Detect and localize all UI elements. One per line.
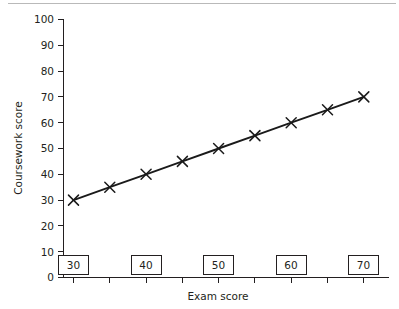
y-tick-label-40: 40 [41, 168, 54, 180]
x-boxed-label-70: 70 [349, 256, 379, 275]
y-tick-label-30: 30 [41, 194, 54, 206]
data-point-marker [250, 131, 260, 141]
y-tick-label-10: 10 [41, 246, 54, 258]
data-point-marker [141, 169, 151, 179]
y-tick-label-20: 20 [41, 220, 54, 232]
scatter-line-chart: 0 10 20 30 40 50 60 70 80 90 100 [0, 0, 399, 309]
data-point-marker [286, 118, 296, 128]
x-axis-title: Exam score [187, 290, 248, 302]
data-point-marker [177, 156, 187, 166]
data-point-marker [323, 105, 333, 115]
x-label-text-50: 50 [212, 259, 225, 271]
y-tick-group [58, 20, 64, 278]
y-tick-label-80: 80 [41, 65, 54, 77]
chart-figure: 0 10 20 30 40 50 60 70 80 90 100 [0, 0, 399, 309]
y-tick-label-50: 50 [41, 142, 54, 154]
x-tick-group [74, 278, 364, 284]
y-tick-label-100: 100 [34, 13, 54, 25]
x-boxed-label-50: 50 [204, 256, 234, 275]
data-point-marker [214, 144, 224, 154]
y-tick-label-group: 0 10 20 30 40 50 60 70 80 90 100 [34, 13, 54, 283]
y-tick-label-60: 60 [41, 117, 54, 129]
x-label-text-70: 70 [357, 259, 370, 271]
y-tick-label-0: 0 [47, 271, 54, 283]
series-markers [69, 92, 369, 205]
x-label-text-30: 30 [67, 259, 80, 271]
x-boxed-label-60: 60 [276, 256, 306, 275]
x-boxed-label-40: 40 [131, 256, 161, 275]
x-label-text-60: 60 [284, 259, 297, 271]
data-point-marker [359, 92, 369, 102]
x-boxed-label-30: 30 [59, 256, 89, 275]
y-tick-label-70: 70 [41, 91, 54, 103]
data-point-marker [69, 195, 79, 205]
y-axis-title: Coursework score [12, 101, 24, 195]
y-tick-label-90: 90 [41, 39, 54, 51]
data-point-marker [105, 182, 115, 192]
x-label-text-40: 40 [139, 259, 152, 271]
